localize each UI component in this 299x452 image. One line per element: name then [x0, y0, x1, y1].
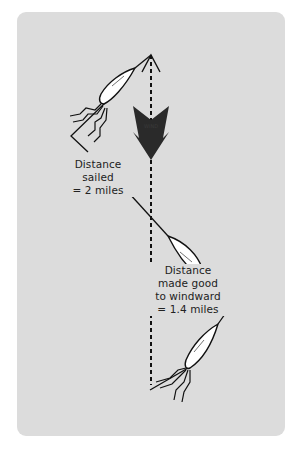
distance-made-good-line-1: Distance [140, 264, 236, 277]
boat-upper-icon [70, 68, 135, 152]
distance-made-good-line-2: made good [140, 277, 236, 290]
distance-sailed-line-2: sailed [50, 171, 146, 184]
track-segment-2 [128, 192, 168, 236]
track-segment-1 [135, 55, 151, 68]
boat-lower-icon [150, 324, 218, 402]
wind-arrow-label: WIND [144, 123, 158, 129]
distance-made-good-label: Distance made good to windward = 1.4 mil… [140, 264, 236, 316]
distance-sailed-label: Distance sailed = 2 miles [50, 158, 146, 197]
distance-made-good-line-4: = 1.4 miles [140, 303, 236, 316]
sailing-diagram: WIND [0, 0, 299, 452]
distance-sailed-line-3: = 2 miles [50, 184, 146, 197]
distance-made-good-line-3: to windward [140, 290, 236, 303]
distance-sailed-line-1: Distance [50, 158, 146, 171]
